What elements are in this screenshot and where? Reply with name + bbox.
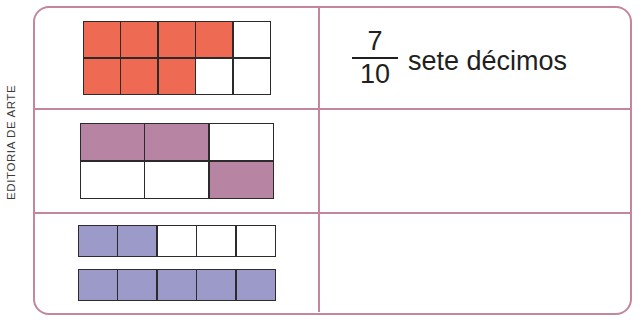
table-row [35,110,630,214]
grid-cell [158,226,196,256]
answer-cell-2[interactable] [320,110,630,212]
grid-cell [79,226,117,256]
credit-label: EDITORIA DE ARTE [0,0,22,200]
grid-cell [210,124,273,160]
grid-cell [159,22,195,57]
table-row [35,214,630,312]
answer-cell-3[interactable] [320,214,630,312]
grid-cell [118,270,156,300]
grid-cell [158,270,196,300]
grid-cell [79,270,117,300]
grid-cell [84,59,120,94]
grid-cell [121,22,157,57]
strip-top [78,225,276,257]
fraction-words: sete décimos [408,40,567,77]
grid-cell [121,59,157,94]
grid-cell [118,226,156,256]
grid-cell [234,22,270,57]
strip-bottom [78,269,276,301]
grid-cell [159,59,195,94]
grid-cell [145,124,208,160]
grid-cell [84,22,120,57]
grid-cell [196,22,232,57]
grid-cell [237,226,275,256]
grid-cell [197,226,235,256]
grid-cell [81,124,144,160]
grid-cell [237,270,275,300]
fifths-strips [78,225,276,301]
tenths-grid [83,21,271,95]
grid-cell [210,162,273,198]
fraction-denominator: 10 [360,59,390,88]
fraction-exercise-table: 7 10 sete décimos [33,6,632,315]
grid-cell [81,162,144,198]
grid-cell [234,59,270,94]
diagram-cell-tenths [35,8,320,108]
diagram-cell-fifths [35,214,320,312]
grid-cell [145,162,208,198]
grid-cell [196,59,232,94]
fraction-numerator: 7 [367,28,382,57]
fraction-7-10: 7 10 [352,28,398,89]
answer-cell-1[interactable]: 7 10 sete décimos [320,8,630,108]
table-row: 7 10 sete décimos [35,8,630,110]
fraction-answer-1: 7 10 sete décimos [352,28,567,89]
sixths-grid [80,123,274,199]
diagram-cell-sixths [35,110,320,212]
grid-cell [197,270,235,300]
